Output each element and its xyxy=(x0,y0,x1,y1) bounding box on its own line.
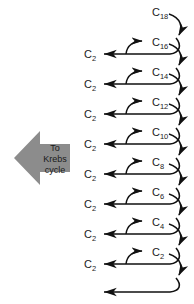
krebs-line-1: To xyxy=(50,143,60,153)
chain-label-c14: C14 xyxy=(152,66,168,81)
chain-label-c6: C6 xyxy=(152,186,164,201)
chain-arrow-12 xyxy=(126,101,142,114)
chain-shorten-arrows xyxy=(126,41,142,264)
released-label-4: C2 xyxy=(84,138,96,153)
chain-label-c4: C4 xyxy=(152,216,164,231)
krebs-line-2: Krebs xyxy=(43,154,67,164)
chain-label-c10: C10 xyxy=(152,126,168,141)
chain-label-c8: C8 xyxy=(152,156,164,171)
to-krebs-cycle-arrow: To Krebs cycle xyxy=(14,131,70,185)
released-label-group: C2 C2 C2 C2 C2 C2 C2 C2 xyxy=(84,48,96,273)
released-label-8: C2 xyxy=(84,258,96,273)
chain-arrow-10 xyxy=(126,131,142,144)
chain-label-c12: C12 xyxy=(152,96,168,111)
released-label-5: C2 xyxy=(84,168,96,183)
chain-arrow-4 xyxy=(126,221,142,234)
krebs-line-3: cycle xyxy=(45,165,66,175)
chain-label-c2: C2 xyxy=(152,246,164,261)
beta-oxidation-diagram: To Krebs cycle xyxy=(0,0,194,304)
released-label-6: C2 xyxy=(84,198,96,213)
chain-arrow-6 xyxy=(126,191,142,204)
diagram-canvas: To Krebs cycle xyxy=(0,0,194,304)
released-label-1: C2 xyxy=(84,48,96,63)
released-label-2: C2 xyxy=(84,78,96,93)
chain-arrow-8 xyxy=(126,161,142,174)
chain-arrow-16 xyxy=(126,41,142,54)
chain-label-group: C18 C16 C14 C12 C10 C8 C6 C4 C2 xyxy=(152,6,168,261)
released-label-7: C2 xyxy=(84,228,96,243)
chain-label-c16: C16 xyxy=(152,36,168,51)
chain-arrow-14 xyxy=(126,71,142,84)
release-arrow-9 xyxy=(104,278,179,292)
released-label-3: C2 xyxy=(84,108,96,123)
chain-label-c18: C18 xyxy=(152,6,168,21)
spiral-turn-1 xyxy=(169,14,181,35)
chain-arrow-2 xyxy=(126,251,142,264)
